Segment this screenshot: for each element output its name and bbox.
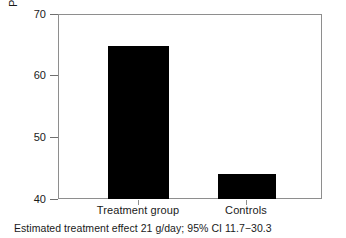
bar-chart-figure: Protein intake (g/day) 70 60 50 40 Treat… bbox=[0, 0, 346, 238]
y-axis-tick-mark-70 bbox=[50, 14, 58, 15]
plot-area bbox=[58, 14, 322, 199]
bar-treatment-group bbox=[108, 46, 169, 199]
bar-controls bbox=[218, 174, 276, 199]
y-axis-tick-mark-50 bbox=[50, 137, 58, 138]
y-axis-tick-mark-40 bbox=[50, 199, 58, 200]
y-axis-tick-mark-60 bbox=[50, 75, 58, 76]
y-axis-title: Protein intake (g/day) bbox=[4, 0, 22, 46]
figure-caption: Estimated treatment effect 21 g/day; 95%… bbox=[14, 222, 272, 235]
x-axis-label-treatment-group: Treatment group bbox=[78, 204, 198, 217]
y-axis-tick-label-60: 60 bbox=[20, 70, 46, 81]
y-axis-title-container: Protein intake (g/day) bbox=[4, 14, 22, 199]
x-axis-label-controls: Controls bbox=[196, 204, 296, 217]
y-axis-tick-label-40: 40 bbox=[20, 194, 46, 205]
y-axis-tick-label-50: 50 bbox=[20, 132, 46, 143]
y-axis-tick-label-70: 70 bbox=[20, 9, 46, 20]
